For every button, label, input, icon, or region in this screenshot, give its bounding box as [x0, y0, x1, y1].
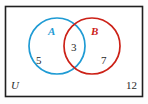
- universe-outside-count: 12: [126, 80, 137, 91]
- region-count-a-only: 5: [36, 55, 42, 66]
- region-count-b-only: 7: [101, 55, 107, 66]
- set-label-a: A: [48, 26, 55, 37]
- set-label-b: B: [91, 26, 98, 37]
- universe-label: U: [11, 80, 19, 91]
- region-count-intersection: 3: [71, 42, 77, 53]
- venn-diagram-figure: A B 5 3 7 U 12: [0, 0, 148, 104]
